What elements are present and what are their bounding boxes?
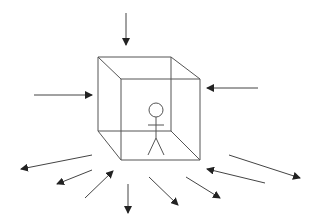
cube-edge <box>98 131 121 160</box>
arrow-right-lower-outward-icon <box>229 155 300 178</box>
figure-right-leg <box>156 138 164 155</box>
arrow-right-lower-inward-icon <box>207 169 265 183</box>
arrow-bottom-right-outward-1-icon <box>149 177 178 205</box>
stick-figure <box>148 103 164 155</box>
arrow-bottom-right-outward-2-icon <box>186 177 220 198</box>
arrow-group <box>21 13 300 213</box>
cube-edge <box>171 57 200 79</box>
figure-left-leg <box>148 138 156 155</box>
figure-head <box>149 103 163 117</box>
arrow-bottom-left-inward-icon <box>85 171 113 198</box>
arrow-bottom-left-outward-1-icon <box>21 155 92 169</box>
cube-edge <box>171 131 200 160</box>
arrow-bottom-left-outward-2-icon <box>57 170 92 184</box>
diagram-canvas <box>0 0 316 224</box>
cube-edge <box>98 57 121 79</box>
